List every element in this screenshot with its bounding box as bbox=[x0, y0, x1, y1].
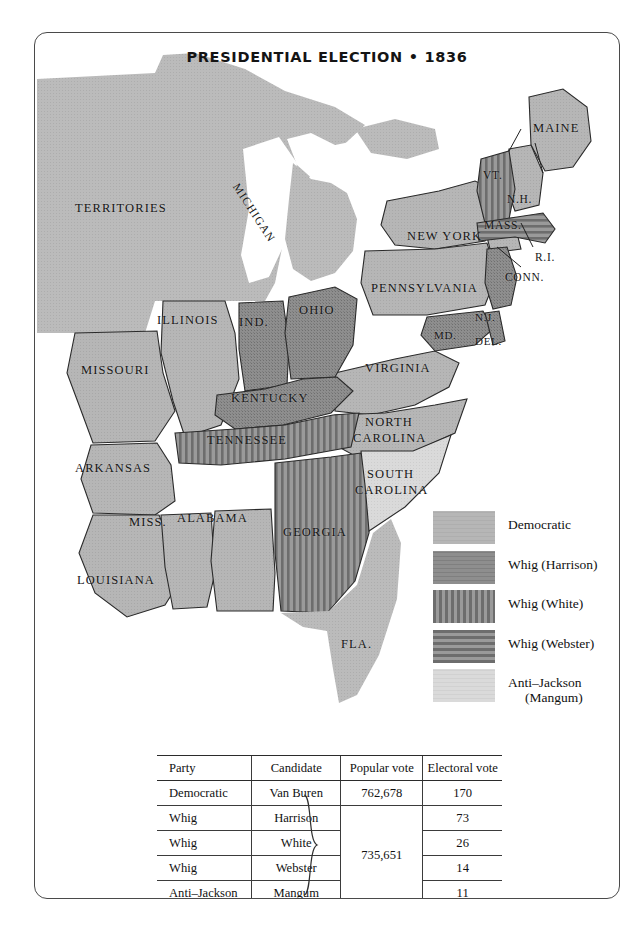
cell-electoral-vote: 170 bbox=[423, 781, 502, 806]
label-massachusetts: MASS. bbox=[484, 219, 522, 231]
header-candidate: Candidate bbox=[252, 756, 341, 781]
legend-swatch-whig-harrison bbox=[433, 551, 495, 584]
state-arkansas bbox=[81, 443, 175, 515]
legend-swatch-whig-white bbox=[433, 590, 495, 623]
label-arkansas: ARKANSAS bbox=[75, 461, 151, 476]
state-missouri bbox=[67, 331, 175, 443]
label-georgia: GEORGIA bbox=[283, 525, 347, 540]
map-legend: Democratic Whig (Harrison) Whig (White) … bbox=[433, 511, 620, 709]
legend-label-anti-jackson: Anti–Jackson (Mangum) bbox=[508, 669, 583, 705]
cell-candidate: Harrison bbox=[252, 806, 341, 831]
legend-item-whig-white: Whig (White) bbox=[433, 590, 620, 623]
cell-candidate: Van Buren bbox=[252, 781, 341, 806]
table-row: Democratic Van Buren 762,678 170 bbox=[157, 781, 502, 806]
legend-item-whig-harrison: Whig (Harrison) bbox=[433, 551, 620, 584]
label-south-carolina-line1: SOUTH bbox=[367, 467, 414, 482]
label-connecticut: CONN. bbox=[505, 271, 544, 283]
header-popular-vote: Popular vote bbox=[341, 756, 423, 781]
cell-electoral-vote: 11 bbox=[423, 881, 502, 900]
legend-item-democratic: Democratic bbox=[433, 511, 620, 544]
legend-label-anti-jackson-line2: (Mangum) bbox=[508, 690, 583, 705]
label-mississippi: MISS. bbox=[129, 515, 167, 530]
cell-electoral-vote: 14 bbox=[423, 856, 502, 881]
map-stage: PRESIDENTIAL ELECTION • 1836 TERRITORIES… bbox=[35, 33, 619, 733]
cell-candidate: White bbox=[252, 831, 341, 856]
legend-label-whig-webster: Whig (Webster) bbox=[508, 630, 594, 651]
table-row: Whig Webster 14 bbox=[157, 856, 502, 881]
label-florida: FLA. bbox=[341, 637, 372, 652]
table-row: Whig Harrison 735,651 73 bbox=[157, 806, 502, 831]
cell-party: Democratic bbox=[157, 781, 252, 806]
table-row: Whig White 26 bbox=[157, 831, 502, 856]
table-header-row: Party Candidate Popular vote Electoral v… bbox=[157, 756, 502, 781]
label-kentucky: KENTUCKY bbox=[231, 391, 309, 406]
label-north-carolina-line1: NORTH bbox=[365, 415, 413, 430]
label-alabama: ALABAMA bbox=[177, 511, 248, 526]
cell-party: Whig bbox=[157, 831, 252, 856]
legend-swatch-whig-webster bbox=[433, 630, 495, 663]
page-title: PRESIDENTIAL ELECTION • 1836 bbox=[35, 49, 619, 65]
state-vermont bbox=[477, 151, 515, 223]
legend-label-whig-harrison: Whig (Harrison) bbox=[508, 551, 598, 572]
results-table: Party Candidate Popular vote Electoral v… bbox=[157, 755, 502, 899]
label-new-hampshire: N.H. bbox=[507, 193, 532, 205]
label-south-carolina-line2: CAROLINA bbox=[355, 483, 428, 498]
cell-popular-vote: 762,678 bbox=[341, 781, 423, 806]
label-illinois: ILLINOIS bbox=[157, 313, 219, 328]
label-indiana: IND. bbox=[239, 315, 269, 330]
cell-electoral-vote: 26 bbox=[423, 831, 502, 856]
label-tennessee: TENNESSEE bbox=[207, 433, 287, 448]
label-north-carolina-line2: CAROLINA bbox=[353, 431, 426, 446]
label-louisiana: LOUISIANA bbox=[77, 573, 155, 588]
label-ohio: OHIO bbox=[299, 303, 335, 318]
legend-swatch-anti-jackson bbox=[433, 669, 495, 702]
label-new-york: NEW YORK bbox=[407, 229, 482, 244]
table-row: Anti–Jackson Mangum 11 bbox=[157, 881, 502, 900]
state-pennsylvania bbox=[361, 243, 497, 315]
label-missouri: MISSOURI bbox=[81, 363, 150, 378]
legend-swatch-democratic bbox=[433, 511, 495, 544]
state-ohio bbox=[285, 287, 357, 379]
label-rhode-island: R.I. bbox=[535, 251, 555, 263]
legend-item-anti-jackson: Anti–Jackson (Mangum) bbox=[433, 669, 620, 702]
label-vermont: VT. bbox=[483, 169, 502, 181]
header-electoral-vote: Electoral vote bbox=[423, 756, 502, 781]
map-frame: PRESIDENTIAL ELECTION • 1836 TERRITORIES… bbox=[34, 32, 620, 899]
cell-candidate: Webster bbox=[252, 856, 341, 881]
cell-party: Anti–Jackson bbox=[157, 881, 252, 900]
label-pennsylvania: PENNSYLVANIA bbox=[371, 281, 478, 296]
legend-label-whig-white: Whig (White) bbox=[508, 590, 583, 611]
label-delaware: DEL. bbox=[475, 335, 502, 347]
cell-popular-vote-grouped: 735,651 bbox=[341, 806, 423, 900]
legend-label-anti-jackson-line1: Anti–Jackson bbox=[508, 675, 582, 690]
label-maine: MAINE bbox=[533, 121, 579, 136]
legend-item-whig-webster: Whig (Webster) bbox=[433, 630, 620, 663]
cell-party: Whig bbox=[157, 806, 252, 831]
label-virginia: VIRGINIA bbox=[365, 361, 431, 376]
header-party: Party bbox=[157, 756, 252, 781]
cell-candidate: Mangum bbox=[252, 881, 341, 900]
label-new-jersey: N.J. bbox=[475, 311, 496, 323]
cell-party: Whig bbox=[157, 856, 252, 881]
label-maryland: MD. bbox=[434, 329, 457, 341]
legend-label-democratic: Democratic bbox=[508, 511, 571, 532]
label-territories: TERRITORIES bbox=[75, 201, 167, 216]
cell-electoral-vote: 73 bbox=[423, 806, 502, 831]
